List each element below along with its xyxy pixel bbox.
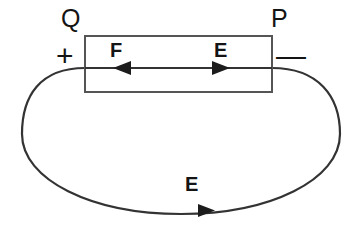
force-vector-label: F (110, 40, 122, 60)
terminal-label-p: P (271, 6, 288, 31)
terminal-label-q: Q (61, 6, 80, 31)
force-arrow-left-head (113, 61, 131, 75)
internal-field-vector-label: E (214, 40, 227, 60)
polarity-negative-label: — (276, 41, 306, 71)
field-arrow-right-head (212, 61, 230, 75)
external-field-vector-label: E (185, 174, 198, 194)
diagram-canvas (0, 0, 362, 239)
polarity-positive-label: + (56, 41, 74, 71)
external-circuit-loop (22, 68, 340, 214)
physics-diagram-figure: Q P + — F E E (0, 0, 362, 239)
external-current-arrowhead (198, 204, 215, 217)
